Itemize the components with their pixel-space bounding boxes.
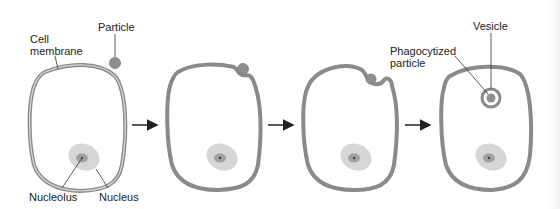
particle-icon <box>366 74 376 84</box>
particle-icon <box>110 58 121 69</box>
cell-stage-2 <box>167 64 260 191</box>
phagocytosis-diagram: Cell membrane Particle Nucleolus Nucleus… <box>0 0 560 209</box>
cell-stage-1 <box>30 58 126 192</box>
phagocytized-particle-icon <box>487 94 496 103</box>
label-particle: Particle <box>98 21 135 33</box>
label-nucleus: Nucleus <box>99 191 139 203</box>
particle-icon <box>238 64 249 75</box>
label-cell-membrane: Cell membrane <box>30 33 83 57</box>
page-edge <box>548 0 560 209</box>
cell-stage-3 <box>303 66 397 190</box>
label-nucleolus: Nucleolus <box>29 191 77 203</box>
cell-stage-4 <box>441 67 531 190</box>
label-phagocytized-particle: Phagocytized particle <box>390 45 456 69</box>
label-vesicle: Vesicle <box>473 20 508 32</box>
